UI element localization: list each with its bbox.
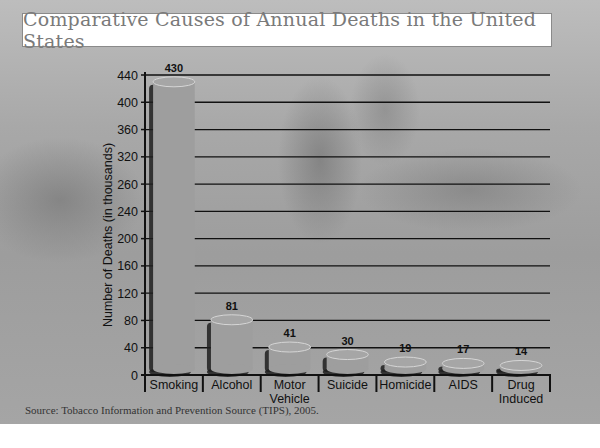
bar-body	[153, 82, 195, 369]
source-note: Source: Tobacco Information and Preventi…	[25, 404, 319, 416]
y-tick-label: 360	[117, 123, 138, 137]
bar-top	[385, 357, 427, 367]
x-tick-label-line: Smoking	[150, 378, 199, 392]
x-tick-label: MotorVehicle	[269, 378, 309, 406]
x-tick-label: Alcohol	[211, 378, 252, 392]
bar-base	[153, 364, 195, 374]
y-tick-label: 400	[117, 96, 138, 110]
bar-top	[500, 360, 542, 370]
x-tick-label-line: Suicide	[327, 378, 368, 392]
data-label: 430	[165, 62, 183, 74]
data-label: 41	[284, 327, 296, 339]
x-tick-label-line: AIDS	[449, 378, 478, 392]
bar-top	[211, 315, 253, 325]
x-tick-label: Smoking	[150, 378, 199, 392]
bar-base	[211, 364, 253, 374]
x-tick-label: Suicide	[327, 378, 368, 392]
data-label: 17	[457, 343, 469, 355]
y-axis-label: Number of Deaths (in thousands)	[101, 143, 115, 327]
bar-top	[153, 77, 195, 87]
x-tick-label: Homicide	[379, 378, 431, 392]
bar-smoking: 430	[149, 62, 195, 377]
y-tick-label: 80	[124, 314, 138, 328]
x-tick-label-line: Alcohol	[211, 378, 252, 392]
x-tick-label: DrugInduced	[499, 378, 544, 406]
bar-top	[327, 350, 369, 360]
y-tick-label: 320	[117, 150, 138, 164]
data-label: 81	[226, 300, 238, 312]
x-tick-label-line: Induced	[499, 392, 544, 406]
y-tick-label: 160	[117, 259, 138, 273]
y-tick-label: 0	[131, 369, 138, 383]
bar-motor-vehicle: 41	[265, 327, 311, 377]
x-tick-label-line: Motor	[274, 378, 306, 392]
bar-top	[269, 342, 311, 352]
y-tick-label: 440	[117, 69, 138, 83]
x-tick-label-line: Drug	[508, 378, 535, 392]
data-label: 30	[341, 335, 353, 347]
data-label: 19	[399, 342, 411, 354]
bar-chart: 4308141301917140408012016020024026032036…	[0, 0, 600, 424]
bar-aids: 17	[438, 343, 484, 377]
y-tick-label: 200	[117, 232, 138, 246]
x-tick-label-line: Homicide	[379, 378, 431, 392]
bar-suicide: 30	[323, 335, 369, 377]
bar-base	[327, 364, 369, 374]
bar-drug-induced: 14	[496, 345, 542, 377]
y-tick-label: 240	[117, 205, 138, 219]
y-tick-label: 120	[117, 287, 138, 301]
y-tick-label: 40	[124, 341, 138, 355]
bar-alcohol: 81	[207, 300, 253, 377]
bar-body	[211, 320, 253, 369]
bar-top	[442, 358, 484, 368]
y-tick-label: 260	[117, 178, 138, 192]
bar-base	[269, 364, 311, 374]
data-label: 14	[515, 345, 528, 357]
x-tick-label: AIDS	[449, 378, 478, 392]
